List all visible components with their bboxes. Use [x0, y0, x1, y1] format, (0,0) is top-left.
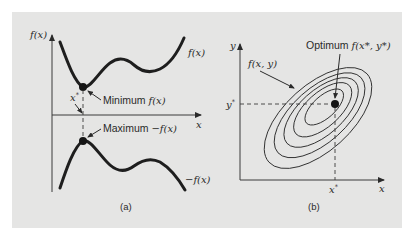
maximum-annotation: Maximum −f(x): [103, 122, 177, 134]
panel-a-caption: (a): [120, 201, 132, 212]
negative-f-of-x-curve-label: −f(x): [185, 174, 211, 185]
optimization-figure: f(x) x f(x) x* Minimum f(x) Maximum −f(x…: [0, 0, 414, 237]
minimum-point: [79, 83, 87, 91]
minimum-annotation: Minimum f(x): [103, 94, 166, 106]
f-of-x-curve-label: f(x): [187, 47, 205, 58]
panel-a-x-axis-label: x: [196, 119, 202, 130]
surface-label: f(x, y): [247, 58, 277, 69]
optimum-annotation: Optimum f(x*, y*): [306, 39, 391, 51]
panel-a-y-axis-label: f(x): [29, 29, 47, 40]
panel-b-y-axis-label: y: [229, 40, 236, 51]
optimum-point: [331, 100, 339, 108]
panel-b-x-axis-label: x: [379, 183, 385, 194]
panel-b-caption: (b): [308, 201, 320, 212]
maximum-point: [79, 137, 87, 145]
